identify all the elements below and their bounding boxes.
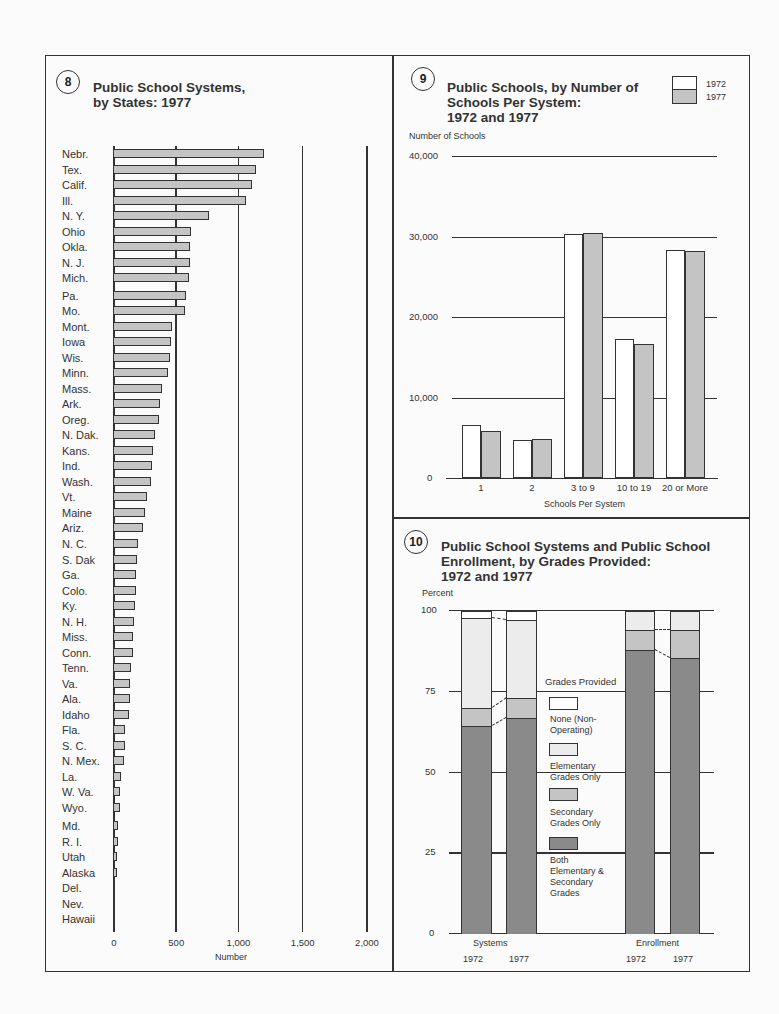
state-bar [113, 555, 137, 564]
state-bar [113, 648, 133, 657]
chart-10-title: Public School Systems and Public School … [441, 539, 710, 584]
state-bar [113, 868, 117, 877]
state-label: Fla. [62, 724, 80, 736]
state-label: Kans. [62, 445, 90, 457]
state-label: Utah [62, 851, 85, 863]
state-bar [113, 149, 264, 158]
bar-1977 [634, 344, 654, 478]
y-tick-label: 20,000 [409, 311, 438, 322]
state-bar [113, 710, 129, 719]
state-label: Calif. [62, 179, 87, 191]
state-label: La. [62, 771, 77, 783]
state-label: Mont. [62, 321, 90, 333]
bar-1977 [532, 439, 552, 478]
chart-10-number-badge: 10 [404, 530, 428, 554]
chart-9-title: Public Schools, by Number of Schools Per… [447, 80, 638, 125]
state-label: Wash. [62, 476, 93, 488]
state-bar [113, 803, 120, 812]
gridline [302, 146, 304, 932]
state-bar [113, 368, 168, 377]
state-label: Mich. [62, 272, 88, 284]
state-label: Conn. [62, 647, 91, 659]
state-label: Ind. [62, 460, 80, 472]
stacked-bar [461, 610, 492, 933]
legend-label-1977: 1977 [706, 92, 726, 102]
state-bar [113, 180, 252, 189]
chart-9-number-badge: 9 [411, 67, 435, 91]
y-tick-label: 30,000 [409, 231, 438, 242]
gridline [452, 156, 717, 157]
state-bar [113, 679, 130, 688]
y-tick-label: 75 [425, 685, 436, 696]
state-label: Oreg. [62, 414, 90, 426]
gridline [446, 478, 718, 479]
state-bar [113, 508, 145, 517]
state-label: Ill. [62, 195, 73, 207]
x-tick-label: 500 [161, 937, 191, 948]
x-tick-label: 10 to 19 [610, 482, 658, 493]
y-tick-label: 25 [425, 846, 436, 857]
state-label: Ala. [62, 693, 81, 705]
state-label: Colo. [62, 585, 88, 597]
bar-segment [507, 611, 536, 620]
chart-8-number-badge: 8 [56, 70, 80, 94]
state-label: Minn. [62, 367, 89, 379]
state-bar [113, 477, 151, 486]
x-tick-label: 1,000 [224, 937, 254, 948]
state-label: Idaho [62, 709, 90, 721]
legend-swatch-secondary [549, 788, 578, 801]
bar-segment [462, 611, 491, 618]
chart-9-y-axis-label: Number of Schools [409, 131, 486, 141]
state-label: S. C. [62, 740, 86, 752]
state-label: N. C. [62, 538, 87, 550]
y-tick-label: 0 [427, 472, 432, 483]
state-bar [113, 539, 138, 548]
state-bar [113, 415, 159, 424]
state-label: W. Va. [62, 786, 94, 798]
state-bar [113, 523, 143, 532]
state-bar [113, 772, 121, 781]
state-bar [113, 899, 115, 908]
y-tick-label: 40,000 [409, 150, 438, 161]
state-label: Nev. [62, 898, 84, 910]
bar-segment [462, 618, 491, 708]
bar-segment [507, 620, 536, 698]
state-bar [113, 353, 170, 362]
state-label: Tenn. [62, 662, 89, 674]
state-label: Mass. [62, 383, 91, 395]
state-label: Ariz. [62, 522, 84, 534]
state-bar [113, 914, 115, 923]
state-label: Pa. [62, 290, 79, 302]
x-tick-label: 0 [99, 937, 129, 948]
state-label: S. Dak [62, 554, 95, 566]
state-bar [113, 258, 190, 267]
bar-segment [626, 630, 654, 649]
state-label: Tex. [62, 164, 82, 176]
state-bar [113, 725, 125, 734]
chart-10-y-axis-label: Percent [422, 588, 453, 598]
bar-1972 [513, 440, 532, 478]
y-tick-label: 0 [429, 927, 434, 938]
legend-swatch-1972 [672, 76, 697, 90]
state-bar [113, 663, 131, 672]
state-bar [113, 227, 191, 236]
state-bar [113, 570, 136, 579]
x-tick-label: 1 [457, 482, 505, 493]
bar-segment [626, 611, 654, 630]
state-label: Va. [62, 678, 78, 690]
state-bar [113, 787, 120, 796]
legend-swatch-both [549, 837, 578, 850]
state-bar [113, 384, 162, 393]
legend-label-none: None (Non-Operating) [550, 714, 597, 736]
state-bar [113, 291, 186, 300]
x-tick-label: 3 to 9 [559, 482, 607, 493]
year-label-systems-1977: 1977 [509, 954, 529, 964]
state-label: Hawaii [62, 913, 95, 925]
state-label: Nebr. [62, 148, 88, 160]
bar-segment [671, 611, 699, 630]
state-label: Ark. [62, 398, 82, 410]
panel-divider-horizontal [392, 517, 750, 519]
state-label: N. Mex. [62, 755, 100, 767]
gridline [238, 146, 240, 932]
state-bar [113, 165, 256, 174]
